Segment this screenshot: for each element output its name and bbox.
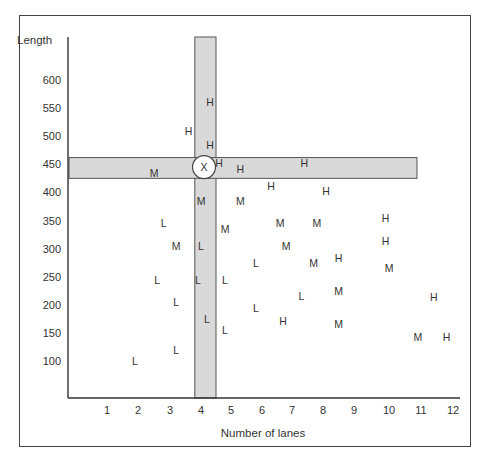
y-tick-label: 350: [43, 215, 61, 227]
marker-m: M: [276, 217, 285, 229]
marker-h: H: [215, 157, 223, 169]
marker-l: L: [173, 296, 179, 308]
marker-m: M: [385, 262, 394, 274]
marker-h: H: [301, 157, 309, 169]
y-tick-label: 200: [43, 299, 61, 311]
marker-l: L: [161, 217, 167, 229]
y-axis-title: Length: [17, 34, 52, 46]
x-tick-label: 5: [228, 404, 234, 416]
x-tick-label: 11: [415, 404, 426, 416]
marker-h: H: [335, 252, 343, 264]
x-tick-label: 4: [198, 404, 204, 416]
circle-label: X: [200, 161, 207, 173]
marker-m: M: [334, 318, 343, 330]
x-tick-label: 7: [289, 404, 295, 416]
x-tick-label: 1: [104, 404, 110, 416]
x-tick-label: 3: [167, 404, 173, 416]
marker-h: H: [382, 235, 390, 247]
highlight-bands: [69, 37, 417, 398]
marker-l: L: [253, 257, 259, 269]
marker-h: H: [382, 212, 390, 224]
marker-h: H: [279, 315, 287, 327]
x-circle-marker: X: [193, 156, 216, 179]
y-tick-label: 550: [43, 102, 61, 114]
marker-m: M: [413, 331, 422, 343]
marker-l: L: [154, 274, 160, 286]
marker-l: L: [204, 313, 210, 325]
y-tick-label: 600: [43, 74, 61, 86]
marker-m: M: [197, 195, 206, 207]
marker-m: M: [150, 167, 159, 179]
marker-m: M: [309, 257, 318, 269]
scatter-chart: 100150200250300350400450500550600 123456…: [0, 0, 492, 470]
marker-h: H: [206, 139, 214, 151]
marker-l: L: [198, 240, 204, 252]
marker-l: L: [298, 290, 304, 302]
marker-l: L: [253, 302, 259, 314]
y-axis-ticks: 100150200250300350400450500550600: [43, 74, 61, 367]
marker-h: H: [430, 291, 438, 303]
x-tick-label: 12: [447, 404, 459, 416]
marker-m: M: [221, 223, 230, 235]
y-tick-label: 400: [43, 186, 61, 198]
marker-l: L: [222, 274, 228, 286]
marker-m: M: [236, 195, 245, 207]
marker-h: H: [443, 331, 451, 343]
marker-l: L: [222, 324, 228, 336]
axes: [68, 37, 460, 398]
x-tick-label: 2: [135, 404, 141, 416]
marker-m: M: [334, 285, 343, 297]
marker-h: H: [237, 163, 245, 175]
y-tick-label: 300: [43, 243, 61, 255]
marker-m: M: [172, 240, 181, 252]
marker-h: H: [206, 96, 214, 108]
marker-l: L: [195, 274, 201, 286]
y-tick-label: 150: [43, 327, 61, 339]
x-axis-ticks: 123456789101112: [104, 404, 459, 416]
marker-l: L: [173, 344, 179, 356]
x-tick-label: 10: [383, 404, 395, 416]
marker-h: H: [267, 180, 275, 192]
x-tick-label: 6: [259, 404, 265, 416]
x-tick-label: 8: [320, 404, 326, 416]
marker-h: H: [322, 185, 330, 197]
y-tick-label: 500: [43, 130, 61, 142]
vertical-highlight-band: [195, 37, 216, 398]
marker-h: H: [185, 125, 193, 137]
x-axis-title: Number of lanes: [221, 427, 306, 439]
marker-m: M: [282, 240, 291, 252]
y-tick-label: 450: [43, 158, 61, 170]
y-tick-label: 250: [43, 271, 61, 283]
y-tick-label: 100: [43, 355, 61, 367]
marker-m: M: [312, 217, 321, 229]
x-tick-label: 9: [351, 404, 357, 416]
data-markers: HHHHHHHHHHHHHHMMMMMMMMMMMMMLLLLLLLLLLLLL: [132, 96, 450, 367]
marker-l: L: [132, 355, 138, 367]
